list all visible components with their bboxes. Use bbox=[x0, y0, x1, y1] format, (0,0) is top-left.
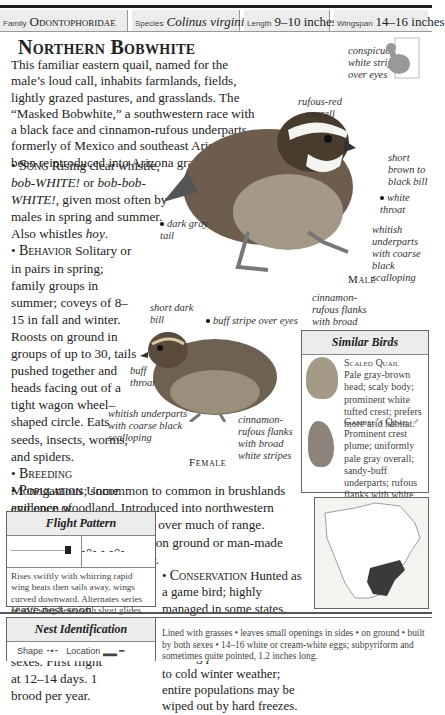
female-label-throat: buff throat bbox=[130, 365, 158, 389]
female-bobwhite-illustration bbox=[140, 322, 280, 422]
conservation-head: Conservation bbox=[170, 568, 247, 583]
male-label-throat: white throat bbox=[380, 192, 432, 216]
similar-birds-box: Similar Birds Scaled Quail Pale gray-bro… bbox=[301, 330, 429, 493]
nest-rule bbox=[0, 612, 432, 614]
male-label-tail: dark gray tail bbox=[160, 218, 210, 242]
top-rule bbox=[0, 5, 432, 8]
nest-id-title: Nest Identification bbox=[7, 618, 155, 642]
family-value: Odontophoridae bbox=[30, 14, 116, 30]
family-cell: FamilyOdontophoridae bbox=[0, 10, 128, 31]
species-cell: SpeciesColinus virginianus bbox=[132, 10, 240, 31]
pointer-dot bbox=[160, 222, 164, 226]
song-call-3: hoy bbox=[86, 226, 105, 241]
pointer-dot bbox=[380, 196, 384, 200]
similar-birds-title: Similar Birds bbox=[302, 331, 428, 355]
page-title: Northern Bobwhite bbox=[18, 36, 195, 59]
bird-silhouette-icon bbox=[381, 36, 421, 80]
gambels-quail-image bbox=[308, 421, 334, 467]
wingspan-cell: Wingspan14–16 inches bbox=[334, 10, 428, 31]
label-text: dark gray tail bbox=[160, 218, 208, 241]
female-label-stripe: buff stripe over eyes bbox=[206, 315, 298, 327]
length-value: 9–10 inches bbox=[274, 14, 336, 30]
nest-desc: Lined with grasses • leaves small openin… bbox=[156, 618, 432, 673]
wingspan-label: Wingspan bbox=[337, 19, 373, 28]
song-text: . bbox=[105, 226, 108, 241]
song-section: • Song Rising clear whistle, bob-WHITE! … bbox=[11, 157, 169, 242]
label-text: white throat bbox=[380, 192, 410, 215]
range-map bbox=[314, 497, 429, 609]
male-symbol-icon: ♂ bbox=[412, 416, 420, 427]
ground-location-icon: ▂▂ ━ bbox=[103, 646, 125, 656]
song-head: Song bbox=[19, 158, 48, 173]
flight-diagram: ‑ᴖ‑ ‑ ‑ᴖ‑ bbox=[7, 536, 155, 568]
taxonomy-header: FamilyOdontophoridae SpeciesColinus virg… bbox=[0, 10, 432, 32]
location-label: Location bbox=[66, 646, 100, 656]
species-label: Species bbox=[135, 19, 163, 28]
song-text: Rising clear whistle, bbox=[48, 158, 159, 173]
male-label-bill: short brown to black bill bbox=[388, 152, 432, 188]
song-text: or bbox=[80, 175, 98, 190]
nest-desc-box: Lined with grasses • leaves small openin… bbox=[155, 617, 432, 661]
female-label-bill: short dark bill bbox=[150, 302, 200, 326]
breeding-head: Breeding bbox=[19, 466, 72, 481]
flight-pattern-title: Flight Pattern bbox=[7, 512, 155, 536]
song-call-1: bob-WHITE! bbox=[11, 175, 80, 190]
pointer-dot bbox=[206, 319, 210, 323]
nest-shape-icon: ⁃•⁃ bbox=[46, 646, 59, 656]
nest-id-box: Nest Identification Shape ⁃•⁃ Location ▂… bbox=[6, 617, 156, 661]
population-head: Population bbox=[19, 483, 83, 498]
similar-bird-name: Gambel’s Quail bbox=[344, 416, 409, 427]
flight-pattern-box: Flight Pattern ‑ᴖ‑ ‑ ‑ᴖ‑ Rises swiftly w… bbox=[6, 511, 156, 607]
similar-bird-name: Scaled Quail bbox=[344, 357, 399, 368]
nest-shape-location: Shape ⁃•⁃ Location ▂▂ ━ bbox=[7, 642, 155, 660]
female-caption: Female bbox=[189, 456, 226, 468]
male-label-rufous: rufous-red overall bbox=[290, 96, 350, 120]
flight-diagram-glide: ‑ᴖ‑ ‑ ‑ᴖ‑ bbox=[82, 536, 156, 567]
male-caption: Male bbox=[348, 273, 376, 285]
shape-label: Shape bbox=[17, 646, 43, 656]
flight-diagram-rise bbox=[7, 536, 82, 567]
range-map-graphic bbox=[315, 498, 428, 608]
male-label-underparts: whitish underparts with coarse black sca… bbox=[372, 224, 432, 284]
family-label: Family bbox=[3, 19, 27, 28]
female-label-flanks: cinnamon-rufous flanks with broad white … bbox=[238, 414, 294, 462]
length-cell: Length9–10 inches bbox=[244, 10, 330, 31]
label-text: buff stripe over eyes bbox=[213, 315, 298, 326]
length-label: Length bbox=[247, 19, 271, 28]
behavior-head: Behavior bbox=[19, 243, 72, 258]
female-label-underparts: whitish underparts with coarse black sca… bbox=[108, 408, 188, 444]
scaled-quail-image bbox=[306, 357, 338, 399]
wingspan-value: 14–16 inches bbox=[376, 14, 445, 30]
